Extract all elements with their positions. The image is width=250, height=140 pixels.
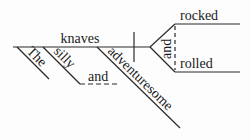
predicate-rocked: rocked: [180, 8, 218, 23]
modifier-conjunction: and: [88, 69, 108, 84]
predicate-conjunction: and: [159, 39, 174, 59]
sentence-diagram: knaves The silly and adventuresome rocke…: [0, 0, 250, 140]
modifier-silly: silly: [51, 44, 79, 72]
subject-word: knaves: [61, 31, 100, 46]
predicate-rolled: rolled: [180, 56, 213, 71]
diagram-canvas: knaves The silly and adventuresome rocke…: [0, 0, 250, 140]
